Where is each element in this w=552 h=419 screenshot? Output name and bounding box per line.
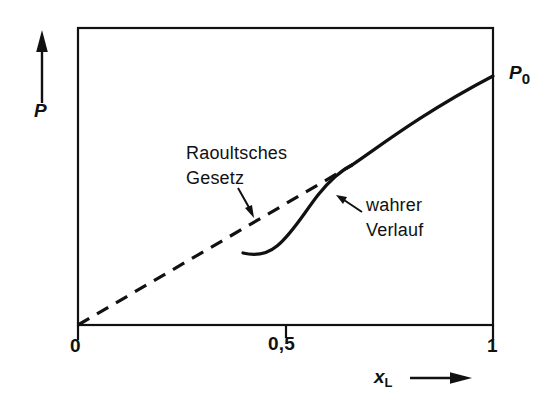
x-axis-arrow-icon (410, 372, 472, 384)
x-tick-label-0: 0 (70, 336, 81, 356)
annotation-real: wahrer Verlauf (366, 196, 423, 240)
real-curve-leader-line (336, 195, 362, 212)
vapour-pressure-chart (0, 0, 552, 419)
annotation-real-line1: wahrer (366, 196, 423, 215)
p0-label: P0 (509, 63, 530, 83)
common-upper-branch (352, 76, 493, 165)
y-axis-arrow-icon (36, 30, 48, 103)
annotation-raoult-line2: Gesetz (186, 169, 287, 188)
raoult-leader-line (238, 188, 254, 218)
x-tick-label-1: 1 (487, 336, 498, 356)
p0-subscript: 0 (522, 70, 530, 87)
annotation-real-line2: Verlauf (366, 221, 423, 240)
x-axis-subscript: L (385, 375, 393, 390)
x-tick-label-05: 0,5 (268, 334, 295, 354)
annotation-raoult-line1: Raoultsches (186, 144, 287, 163)
annotation-raoult: Raoultsches Gesetz (186, 144, 287, 188)
dashed-raoult-line (78, 165, 352, 325)
x-axis-label: xL (374, 367, 393, 387)
y-axis-label: P (34, 101, 47, 121)
